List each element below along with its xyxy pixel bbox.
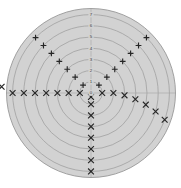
cross-marker	[0, 84, 5, 90]
polar-chart-svg: 01234567	[0, 0, 181, 188]
polar-chart: 01234567	[0, 0, 181, 188]
